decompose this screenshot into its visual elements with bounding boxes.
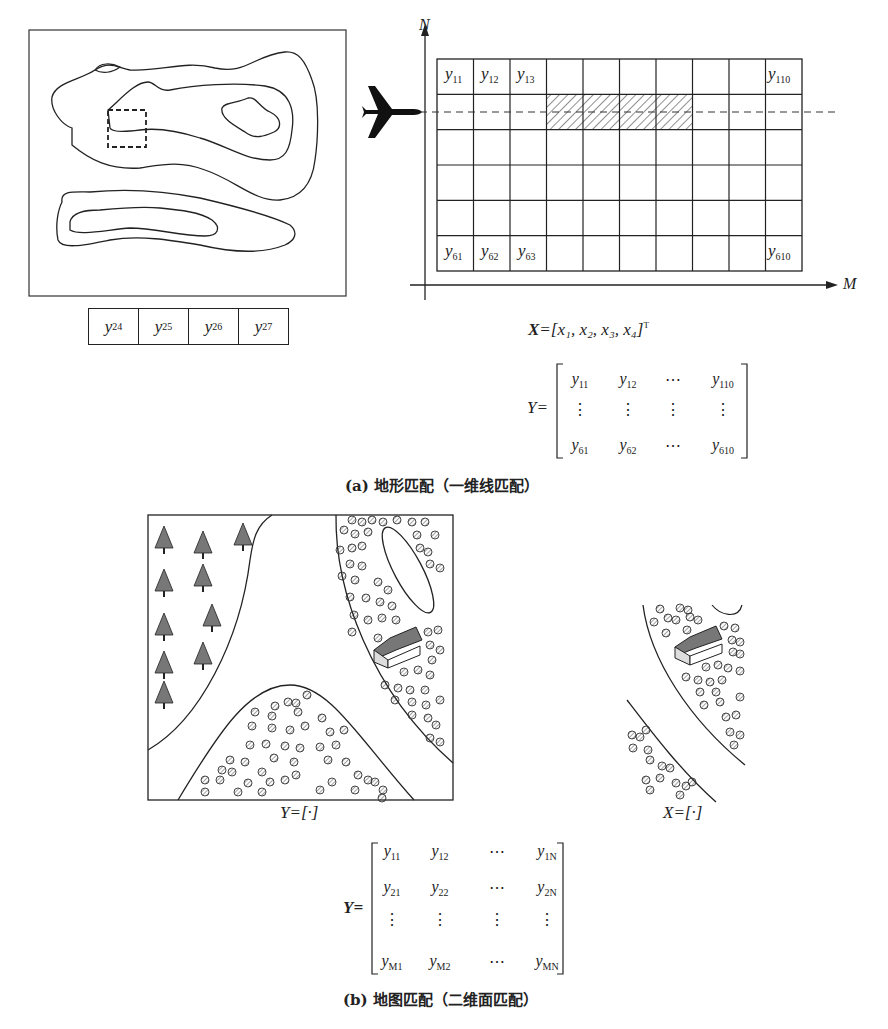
strip-cell: y26 (189, 309, 239, 344)
x-vector-equation: X=[x₁, x₂, x₃, x₄]T (528, 320, 649, 340)
axis-m-label: M (843, 275, 856, 293)
elevation-grid (437, 59, 802, 271)
grid-label-y63: y63 (518, 241, 536, 262)
terrain-map (29, 30, 346, 296)
map-y-label: Y=[·] (280, 803, 318, 823)
grid-label-y11: y11 (445, 64, 462, 85)
grid-label-y61: y61 (445, 241, 463, 262)
caption-b: (b) 地图匹配（二维面匹配） (343, 988, 538, 1009)
strip-cell: y24 (89, 309, 139, 344)
grid-label-y62: y62 (481, 241, 499, 262)
house-icon (675, 626, 722, 665)
grid-label-y13: y13 (517, 64, 535, 85)
matrix-a-lhs: Y= (527, 398, 548, 418)
axis-n-label: N (419, 16, 430, 34)
airplane-icon (362, 86, 422, 138)
elevation-strip: y24 y25 y26 y27 (88, 308, 289, 345)
grid-label-y110: y110 (768, 64, 790, 85)
matrix-b-lhs: Y= (343, 898, 363, 918)
tree-icon (155, 523, 252, 709)
strip-cell: y25 (139, 309, 189, 344)
house-icon (374, 627, 422, 668)
patch-x-label: X=[·] (663, 803, 702, 823)
caption-a: (a) 地形匹配（一维线匹配） (345, 474, 539, 495)
strip-cell: y27 (239, 309, 288, 344)
grid-label-y12: y12 (481, 64, 499, 85)
shrub-icon (628, 604, 744, 799)
grid-label-y610: y610 (768, 241, 791, 262)
patch-x (627, 604, 745, 802)
figure-a-graphics (0, 0, 888, 1029)
map-b (148, 515, 453, 802)
selection-box (108, 110, 146, 147)
